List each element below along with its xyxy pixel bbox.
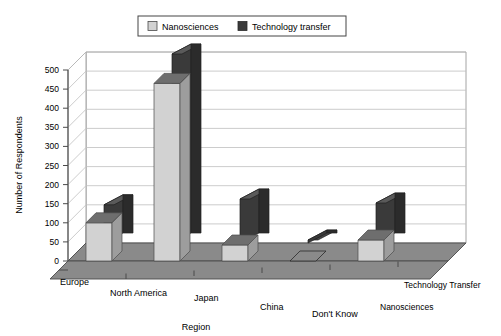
y-tick-50: 50 (50, 237, 60, 247)
chart-figure: Nanosciences Technology transfer (0, 0, 501, 336)
y-tick-450: 450 (45, 84, 59, 94)
bar-nanosciences-dont-know (358, 230, 394, 261)
legend-label-technology-transfer: Technology transfer (252, 22, 331, 32)
y-tick-150: 150 (45, 199, 59, 209)
x-axis-title: Region (182, 322, 211, 332)
depth-label-technology-transfer: Technology Transfer (404, 280, 481, 290)
y-tick-350: 350 (45, 122, 59, 132)
bar-nanosciences-north-america (154, 73, 190, 261)
x-label-europe: Europe (60, 277, 89, 287)
y-axis-ticks (63, 70, 68, 261)
legend-label-nanosciences: Nanosciences (162, 22, 219, 32)
bar-nanosciences-europe (86, 213, 122, 261)
legend-swatch-technology-transfer (238, 22, 247, 31)
y-tick-300: 300 (45, 141, 59, 151)
y-tick-100: 100 (45, 218, 59, 228)
floor-back (68, 243, 466, 261)
depth-axis-labels: Technology Transfer Nanosciences (380, 280, 481, 312)
y-tick-500: 500 (45, 65, 59, 75)
y-tick-200: 200 (45, 180, 59, 190)
depth-label-nanosciences: Nanosciences (380, 302, 433, 312)
y-axis-title: Number of Respondents (14, 116, 24, 214)
y-tick-250: 250 (45, 161, 59, 171)
x-label-dont-know: Don't Know (312, 309, 358, 319)
floor-front (50, 261, 448, 279)
x-label-china: China (260, 302, 284, 312)
x-axis-labels: Europe North America Japan China Don't K… (60, 277, 358, 332)
bar-chart-3d: Nanosciences Technology transfer (0, 0, 501, 336)
y-axis: 500 450 400 350 300 250 200 150 100 50 0… (14, 65, 68, 266)
y-tick-400: 400 (45, 103, 59, 113)
x-label-japan: Japan (194, 293, 219, 303)
x-label-north-america: North America (110, 288, 167, 298)
legend-swatch-nanosciences (148, 22, 157, 31)
chart-legend: Nanosciences Technology transfer (138, 16, 346, 36)
y-tick-0: 0 (54, 256, 59, 266)
